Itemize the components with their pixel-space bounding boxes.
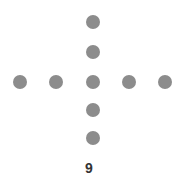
dot [49, 75, 63, 89]
dot [13, 75, 27, 89]
dot [86, 103, 100, 117]
count-label: 9 [0, 160, 178, 176]
dot [86, 45, 100, 59]
dot [86, 131, 100, 145]
dot [158, 75, 172, 89]
dot [86, 75, 100, 89]
dot [86, 15, 100, 29]
dot [122, 75, 136, 89]
